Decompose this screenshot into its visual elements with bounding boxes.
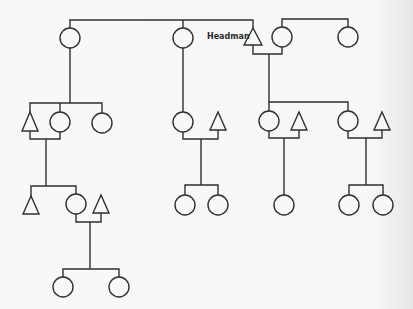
male-triangle-icon <box>374 112 390 130</box>
female-circle-icon <box>109 277 129 297</box>
male-triangle-icon <box>210 112 226 130</box>
female-circle-icon <box>175 195 195 215</box>
female-circle-icon <box>338 27 358 47</box>
female-circle-icon <box>66 194 86 214</box>
female-circle-icon <box>274 195 294 215</box>
female-circle-icon <box>373 195 393 215</box>
female-circle-icon <box>339 195 359 215</box>
kinship-chart-svg: Headman <box>0 0 413 309</box>
male-triangle-icon <box>22 112 38 131</box>
female-symbols <box>50 27 393 297</box>
female-circle-icon <box>60 28 80 48</box>
headman-label: Headman <box>207 32 250 41</box>
female-circle-icon <box>173 28 193 48</box>
female-circle-icon <box>173 112 193 132</box>
female-circle-icon <box>208 195 228 215</box>
female-circle-icon <box>53 277 73 297</box>
male-triangle-icon <box>23 196 39 214</box>
female-circle-icon <box>50 112 70 132</box>
female-circle-icon <box>338 111 358 131</box>
male-triangle-icon <box>291 112 307 130</box>
female-circle-icon <box>92 113 112 133</box>
female-circle-icon <box>259 111 279 131</box>
kinship-diagram: Headman <box>0 0 413 309</box>
gen2-lines <box>30 102 382 195</box>
gen4-lines <box>63 269 119 277</box>
male-triangle-icon <box>93 195 109 213</box>
female-circle-icon <box>272 27 292 47</box>
male-symbols <box>22 28 390 214</box>
